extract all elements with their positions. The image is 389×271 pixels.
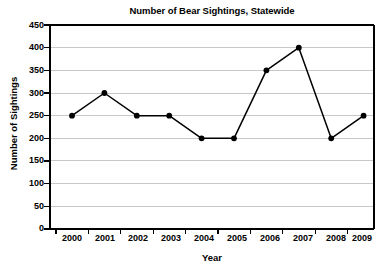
data-point — [328, 135, 334, 141]
data-point — [296, 45, 302, 51]
data-point — [361, 113, 367, 119]
data-point — [102, 90, 108, 96]
plot-area — [0, 0, 389, 271]
x-axis-ticks — [56, 229, 348, 234]
data-point — [134, 113, 140, 119]
data-point — [264, 67, 270, 73]
data-point — [231, 135, 237, 141]
data-point — [166, 113, 172, 119]
chart-figure: Number of Bear Sightings, Statewide Numb… — [0, 0, 389, 271]
data-point — [69, 113, 75, 119]
y-axis-ticks — [44, 25, 50, 229]
grid-lines — [50, 25, 374, 206]
data-point — [199, 135, 205, 141]
plot-border — [50, 25, 374, 229]
